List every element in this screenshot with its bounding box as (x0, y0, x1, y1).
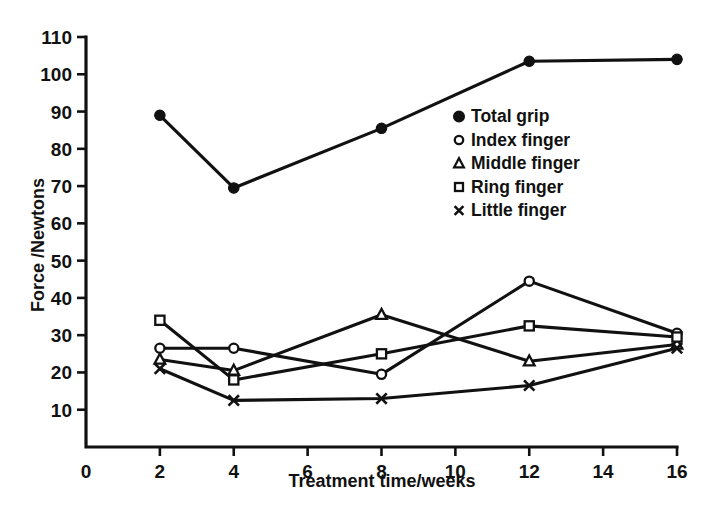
triangle-marker (228, 365, 239, 375)
y-axis-tick-label: 40 (51, 288, 72, 309)
series-line (160, 59, 677, 188)
chart-legend: Total gripIndex fingerMiddle fingerRing … (454, 106, 580, 220)
legend-item-label: Index finger (471, 130, 570, 150)
open-circle-marker (525, 277, 534, 286)
y-axis-tick-label: 110 (41, 27, 72, 48)
data-series-layer (155, 54, 683, 405)
legend-item-label: Total grip (471, 106, 549, 126)
triangle-marker (454, 158, 464, 167)
legend-item-label: Ring finger (471, 177, 564, 197)
x-axis-tick-label: 0 (81, 461, 92, 482)
y-axis-tick-label: 70 (51, 176, 72, 197)
filled-circle-marker (229, 183, 239, 193)
filled-circle-marker (376, 123, 386, 133)
cross-marker (455, 206, 464, 215)
y-axis-tick-label: 90 (51, 102, 72, 123)
y-axis-title: Force /Newtons (28, 178, 48, 312)
legend-item: Middle finger (454, 153, 580, 173)
legend-item-label: Little finger (471, 200, 566, 220)
x-axis-title: Treatment time/weeks (288, 471, 475, 491)
line-chart: 1020304050607080901001100246810121416 To… (0, 0, 709, 510)
square-marker (377, 349, 386, 358)
legend-item: Index finger (455, 130, 571, 150)
triangle-marker (524, 355, 535, 365)
x-axis-tick-label: 2 (155, 461, 166, 482)
y-axis-tick-label: 60 (51, 213, 72, 234)
square-marker (229, 375, 238, 384)
legend-item: Ring finger (455, 177, 564, 197)
filled-circle-marker (672, 54, 682, 64)
y-axis-tick-label: 20 (51, 362, 72, 383)
square-marker (525, 321, 534, 330)
filled-circle-marker (155, 110, 165, 120)
triangle-marker (376, 309, 387, 319)
open-circle-marker (229, 344, 238, 353)
square-marker (155, 316, 164, 325)
filled-circle-marker (524, 56, 534, 66)
legend-item: Little finger (455, 200, 567, 220)
square-marker (455, 183, 463, 191)
data-series (155, 309, 683, 375)
chart-container: 1020304050607080901001100246810121416 To… (0, 0, 709, 510)
y-axis-tick-label: 80 (51, 139, 72, 160)
open-circle-marker (377, 370, 386, 379)
legend-item-label: Middle finger (471, 153, 580, 173)
axes: 1020304050607080901001100246810121416 (40, 27, 687, 482)
axis-lines (86, 37, 677, 447)
filled-circle-marker (454, 111, 465, 122)
data-series (155, 54, 683, 193)
x-axis-tick-label: 16 (666, 461, 687, 482)
y-axis-tick-label: 30 (51, 325, 72, 346)
series-line (160, 315, 677, 371)
x-axis-tick-label: 4 (228, 461, 239, 482)
open-circle-marker (455, 136, 463, 144)
legend-item: Total grip (454, 106, 550, 126)
triangle-marker (155, 354, 166, 364)
y-axis-tick-label: 100 (40, 64, 72, 85)
square-marker (672, 332, 681, 341)
x-axis-tick-label: 14 (593, 461, 615, 482)
y-axis-tick-label: 50 (51, 251, 72, 272)
x-axis-tick-label: 12 (519, 461, 540, 482)
y-axis-tick-label: 10 (51, 400, 72, 421)
